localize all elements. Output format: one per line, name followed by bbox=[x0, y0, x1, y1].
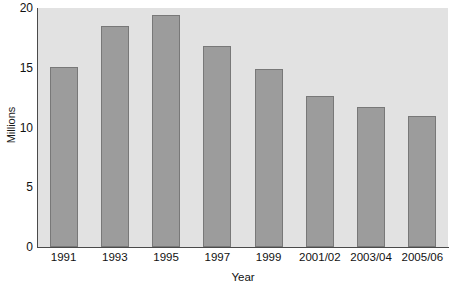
x-tick-label: 1997 bbox=[192, 249, 243, 265]
bar bbox=[306, 96, 334, 247]
y-tick-label: 15 bbox=[20, 61, 33, 75]
bar bbox=[357, 107, 385, 247]
y-axis-tick-labels: 05101520 bbox=[0, 0, 38, 287]
y-tick-label: 0 bbox=[26, 240, 33, 254]
y-tick-label: 20 bbox=[20, 1, 33, 15]
x-axis-line bbox=[37, 247, 449, 248]
x-tick-label: 2003/04 bbox=[346, 249, 397, 265]
bar bbox=[408, 116, 436, 247]
x-tick-label: 1993 bbox=[89, 249, 140, 265]
bar bbox=[50, 67, 78, 247]
x-tick-label: 1999 bbox=[243, 249, 294, 265]
x-tick-label: 1991 bbox=[38, 249, 89, 265]
x-tick-label: 1995 bbox=[141, 249, 192, 265]
x-tick-label: 2001/02 bbox=[294, 249, 345, 265]
x-axis-tick-labels: 199119931995199719992001/022003/042005/0… bbox=[38, 249, 448, 269]
bar bbox=[203, 46, 231, 247]
bar bbox=[101, 26, 129, 247]
y-tick-label: 5 bbox=[26, 180, 33, 194]
plot-area bbox=[38, 8, 448, 247]
y-tick-label: 10 bbox=[20, 121, 33, 135]
bar bbox=[255, 69, 283, 247]
x-tick-label: 2005/06 bbox=[397, 249, 448, 265]
x-axis-title: Year bbox=[38, 269, 448, 285]
bar bbox=[152, 15, 180, 247]
bar-chart-figure: Millions 05101520 1991199319951997199920… bbox=[0, 0, 451, 287]
